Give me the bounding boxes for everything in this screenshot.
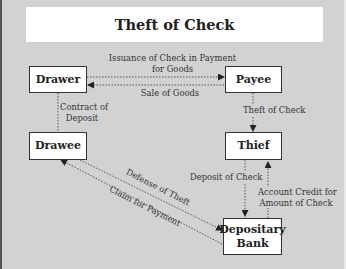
label-issuance: Issuance of Check in Payment for Goods <box>95 53 250 74</box>
label-theft-of-check: Theft of Check <box>243 105 303 116</box>
label-contract-of-deposit: Contract of Deposit <box>60 102 104 123</box>
label-account-credit: Account Credit for Amount of Check <box>258 187 334 208</box>
node-depositary-bank: Depositary Bank <box>223 218 282 255</box>
node-thief: Thief <box>225 132 282 160</box>
node-drawee: Drawee <box>29 132 87 160</box>
defense-of-theft-arrow <box>80 160 222 230</box>
label-deposit-of-check: Deposit of Check <box>190 172 260 183</box>
label-sale-of-goods: Sale of Goods <box>120 88 220 99</box>
node-drawer: Drawer <box>29 66 87 93</box>
